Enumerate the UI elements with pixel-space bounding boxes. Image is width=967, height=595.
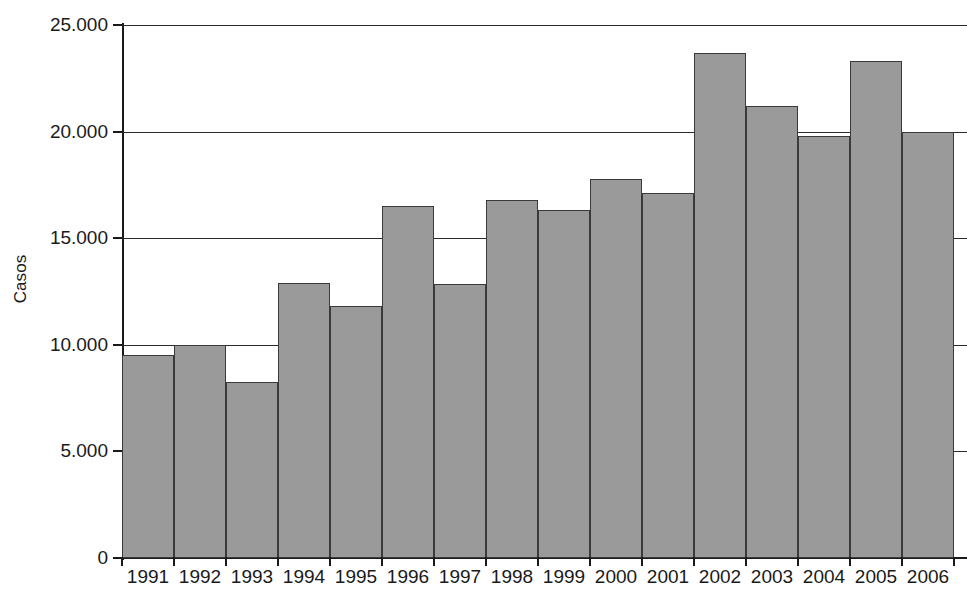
x-axis-tick	[901, 557, 903, 566]
y-axis-tick-label: 0	[4, 548, 108, 567]
bar	[642, 193, 694, 558]
bar	[434, 284, 486, 558]
x-axis-tick-label: 1995	[330, 566, 382, 588]
bar	[798, 136, 850, 558]
x-axis-tick-label: 2004	[798, 566, 850, 588]
x-axis-tick-label: 2002	[694, 566, 746, 588]
y-axis-tick-label: 5.000	[4, 441, 108, 460]
x-axis-tick-label: 2006	[902, 566, 954, 588]
x-axis-tick-label: 1999	[538, 566, 590, 588]
y-axis-tick	[113, 237, 122, 239]
y-axis-tick-label: 20.000	[4, 122, 108, 141]
bar	[694, 53, 746, 558]
y-axis-tick	[113, 450, 122, 452]
bar	[122, 355, 174, 558]
bar	[278, 283, 330, 558]
x-axis-tick	[797, 557, 799, 566]
bar	[538, 210, 590, 558]
x-axis-tick	[589, 557, 591, 566]
bar	[590, 179, 642, 558]
bar	[226, 382, 278, 558]
x-axis-tick	[277, 557, 279, 566]
x-axis-tick	[329, 557, 331, 566]
plot-area	[122, 25, 967, 558]
x-axis-tick-label: 1997	[434, 566, 486, 588]
x-axis-tick	[381, 557, 383, 566]
y-axis-tick	[113, 344, 122, 346]
x-axis-tick	[953, 557, 955, 566]
x-axis-tick	[641, 557, 643, 566]
x-axis-tick	[485, 557, 487, 566]
x-axis-tick-label: 2000	[590, 566, 642, 588]
x-axis-tick	[849, 557, 851, 566]
x-axis-tick	[693, 557, 695, 566]
bar	[902, 132, 954, 558]
y-axis-tick-label: 25.000	[4, 15, 108, 34]
x-axis-tick-label: 1998	[486, 566, 538, 588]
y-axis-tick-label: 10.000	[4, 335, 108, 354]
x-axis-tick	[121, 557, 123, 566]
x-axis-tick-label: 1992	[174, 566, 226, 588]
x-axis-tick-label: 2003	[746, 566, 798, 588]
bar	[382, 206, 434, 558]
x-axis-tick	[433, 557, 435, 566]
bar	[746, 106, 798, 558]
bar	[486, 200, 538, 558]
y-axis-tick	[113, 24, 122, 26]
y-axis-tick-labels: 05.00010.00015.00020.00025.000	[0, 0, 108, 595]
x-axis-tick-label: 2001	[642, 566, 694, 588]
bar	[174, 345, 226, 558]
bar-chart-figure: Casos 05.00010.00015.00020.00025.000 199…	[0, 0, 967, 595]
x-axis-tick	[537, 557, 539, 566]
y-axis-tick-label: 15.000	[4, 228, 108, 247]
x-axis-tick-label: 1996	[382, 566, 434, 588]
x-axis-tick-label: 2005	[850, 566, 902, 588]
x-axis-tick-label: 1993	[226, 566, 278, 588]
x-axis-tick	[173, 557, 175, 566]
x-axis-tick-label: 1994	[278, 566, 330, 588]
bar-series	[122, 25, 967, 558]
y-axis-tick	[113, 131, 122, 133]
bar	[330, 306, 382, 558]
x-axis-tick	[745, 557, 747, 566]
bar	[850, 61, 902, 558]
x-axis-tick-label: 1991	[122, 566, 174, 588]
x-axis-tick	[225, 557, 227, 566]
